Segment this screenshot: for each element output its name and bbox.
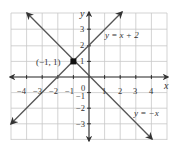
y-axis-label: y bbox=[79, 8, 85, 19]
x-tick-label: 3 bbox=[133, 86, 137, 96]
axes bbox=[10, 12, 168, 141]
y-tick-label: 1 bbox=[80, 56, 84, 66]
x-tick-label: −3 bbox=[33, 86, 42, 96]
x-tick-label: −4 bbox=[17, 86, 27, 96]
line-y-equals-x-plus-2 bbox=[11, 12, 122, 124]
y-tick-label: 3 bbox=[80, 24, 84, 34]
x-tick-label: 1 bbox=[102, 86, 106, 96]
x-tick-label: −2 bbox=[49, 86, 58, 96]
y-tick-label: −3 bbox=[76, 119, 85, 129]
x-tick-label: 2 bbox=[118, 86, 122, 96]
x-axis-label: x bbox=[163, 80, 169, 91]
x-tick-label: 4 bbox=[149, 86, 154, 96]
y-tick-label: −2 bbox=[76, 103, 85, 113]
y-tick-label: 2 bbox=[80, 40, 84, 50]
intersection-point bbox=[70, 58, 76, 64]
line2-label: y = −x bbox=[133, 108, 159, 118]
x-tick-label: −1 bbox=[65, 86, 74, 96]
line1-label: y = x + 2 bbox=[104, 30, 139, 40]
point-label: (−1, 1) bbox=[36, 57, 61, 67]
coordinate-graph: x y 0 −4 −3 −2 −1 1 2 3 4 3 2 1 −1 −2 −3… bbox=[0, 0, 182, 148]
y-tick-label: −1 bbox=[76, 91, 85, 101]
